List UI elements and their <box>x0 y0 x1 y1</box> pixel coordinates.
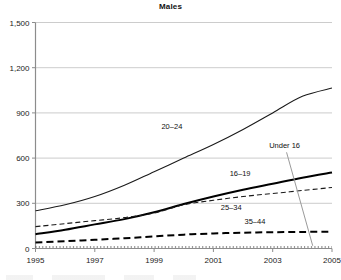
x-tick-label: 1995 <box>27 256 45 265</box>
y-tick-label: 900 <box>16 109 30 118</box>
series-annotation: Under 16 <box>269 141 300 150</box>
y-tick-labels: 03006009001,2001,500 <box>9 19 30 254</box>
x-tick-label: 1997 <box>86 256 104 265</box>
y-tick-label: 300 <box>16 199 30 208</box>
series-annotations: 20–2416–1925–3435–44Under 16 <box>161 122 312 245</box>
line-chart-plot: 03006009001,2001,500 1995199719992001200… <box>0 0 341 280</box>
y-tick-label: 1,200 <box>9 64 30 73</box>
gridlines <box>36 23 333 204</box>
series-line-25-34 <box>36 187 333 226</box>
y-tick-label: 600 <box>16 154 30 163</box>
y-tick-label: 0 <box>25 245 30 254</box>
x-tick-label: 2005 <box>323 256 341 265</box>
data-series-group <box>36 88 333 247</box>
series-annotation: 35–44 <box>244 217 265 226</box>
series-annotation: 20–24 <box>161 122 182 131</box>
x-axis <box>36 249 333 253</box>
x-tick-labels: 199519971999200120032005 <box>27 256 341 265</box>
series-annotation: 25–34 <box>221 203 242 212</box>
y-tick-label: 1,500 <box>9 19 30 28</box>
series-annotation: 16–19 <box>230 169 251 178</box>
chart-container: Males 03006009001,2001,500 1995199719992… <box>0 0 341 280</box>
x-tick-label: 1999 <box>145 256 163 265</box>
y-axis <box>32 23 36 249</box>
x-tick-label: 2003 <box>264 256 282 265</box>
page-footer-artifact <box>6 275 196 280</box>
x-tick-label: 2001 <box>205 256 223 265</box>
series-line-35-44 <box>36 232 333 243</box>
